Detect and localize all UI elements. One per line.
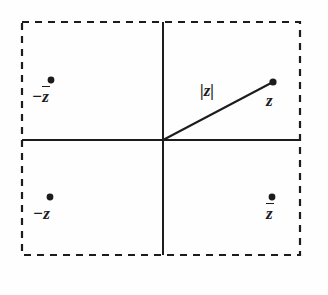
minus-sign-glyph: −	[32, 87, 42, 106]
figure-canvas	[0, 0, 328, 295]
label-modulus: |z|	[200, 82, 214, 99]
point-z	[269, 78, 276, 85]
z-conjugate-glyph-2: z	[266, 205, 273, 222]
modulus-segment	[163, 82, 273, 140]
point-neg-z-conjugate	[48, 77, 55, 84]
complex-plane-figure: −z z −z z |z|	[0, 0, 328, 295]
label-neg-z-conjugate: −z	[32, 88, 49, 105]
label-z-conjugate: z	[266, 205, 273, 222]
point-neg-z	[47, 194, 54, 201]
label-z: z	[266, 92, 273, 109]
z-conjugate-glyph: z	[42, 88, 49, 105]
label-neg-z: −z	[33, 205, 50, 222]
point-z-conjugate	[269, 194, 276, 201]
dashed-frame	[22, 22, 300, 255]
